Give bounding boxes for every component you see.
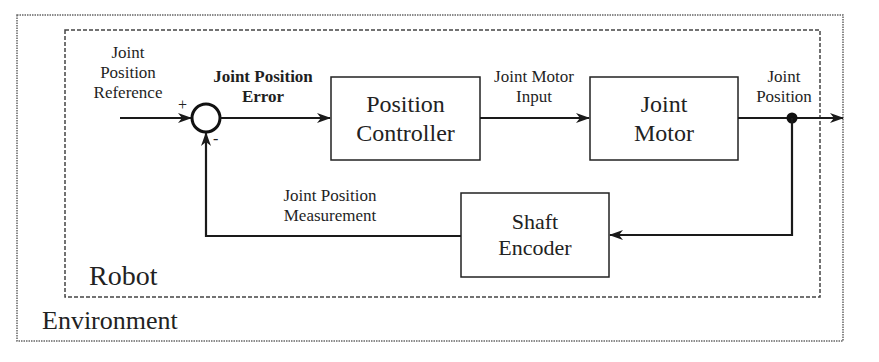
reference-label-line3: Reference bbox=[78, 83, 178, 103]
reference-label-line2: Position bbox=[78, 63, 178, 83]
reference-label-line1: Joint bbox=[78, 43, 178, 63]
plus-sign: + bbox=[178, 96, 187, 114]
environment-label: Environment bbox=[42, 306, 178, 336]
output-label: Joint Position bbox=[744, 67, 824, 107]
shaft-encoder-line2: Encoder bbox=[498, 235, 571, 261]
motor-input-label-line2: Input bbox=[478, 87, 590, 107]
reference-label: Joint Position Reference bbox=[78, 43, 178, 103]
minus-sign: - bbox=[213, 130, 218, 148]
joint-motor-line2: Motor bbox=[634, 119, 694, 148]
joint-motor-line1: Joint bbox=[634, 90, 694, 119]
error-label-line2: Error bbox=[198, 87, 328, 107]
measurement-label: Joint Position Measurement bbox=[265, 186, 395, 226]
error-label: Joint Position Error bbox=[198, 67, 328, 107]
robot-container bbox=[65, 30, 820, 297]
joint-motor-label: Joint Motor bbox=[590, 77, 738, 160]
shaft-encoder-label: Shaft Encoder bbox=[461, 193, 609, 277]
error-label-line1: Joint Position bbox=[198, 67, 328, 87]
shaft-encoder-line1: Shaft bbox=[498, 209, 571, 235]
output-label-line1: Joint bbox=[744, 67, 824, 87]
measurement-label-line1: Joint Position bbox=[265, 186, 395, 206]
position-controller-line1: Position bbox=[356, 90, 455, 119]
motor-input-label-line1: Joint Motor bbox=[478, 67, 590, 87]
motor-input-label: Joint Motor Input bbox=[478, 67, 590, 107]
output-label-line2: Position bbox=[744, 87, 824, 107]
position-controller-label: Position Controller bbox=[331, 77, 480, 160]
position-controller-line2: Controller bbox=[356, 119, 455, 148]
measurement-label-line2: Measurement bbox=[265, 206, 395, 226]
summing-junction bbox=[192, 104, 220, 132]
robot-label: Robot bbox=[89, 260, 157, 292]
